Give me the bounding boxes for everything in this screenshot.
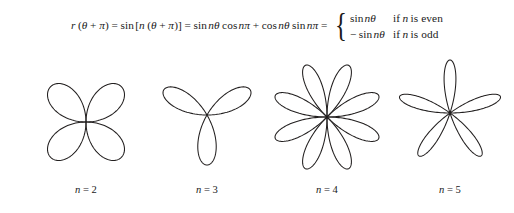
formula-plus-middle: +: [250, 19, 262, 31]
rose-n2-label: n=2: [46, 184, 126, 195]
rose-n2: [30, 48, 142, 186]
formula-term1-plus: +: [157, 19, 169, 31]
formula-term1-theta: θ: [151, 19, 157, 31]
formula-term1-n: n: [139, 19, 145, 31]
rose-n2-label-value: 2: [92, 184, 97, 195]
case-even-value: sinnθ: [350, 12, 393, 24]
formula-expression: r(θ+π)=sin[n(θ+π)]=sinnθcosnπ+cosnθsinnπ…: [71, 12, 443, 41]
formula-sin-2: sin: [194, 19, 209, 31]
formula-term2-npi: nπ: [239, 19, 251, 31]
rose-n2-label-text: n=2: [75, 184, 97, 195]
rose-n5-label-value: 5: [456, 184, 461, 195]
rose-n2-petal-1: [86, 84, 124, 122]
case-odd-arg: nθ: [373, 28, 384, 40]
rose-n4-petal-4: [275, 93, 327, 117]
rose-n5-petal-5: [450, 94, 501, 113]
case-odd: −sinnθifnis odd: [350, 28, 443, 40]
formula-equals-2: =: [182, 19, 194, 31]
case-even-condition: ifnis even: [393, 12, 443, 24]
rose-n3: [152, 48, 262, 186]
case-even-rest: is even: [411, 12, 443, 24]
rose-n4-label-equals: =: [321, 184, 332, 195]
formula-term3-npi: nπ: [307, 19, 319, 31]
cases-list: sinnθifnis even−sinnθifnis odd: [350, 12, 443, 41]
case-even-arg: nθ: [365, 12, 376, 24]
case-odd-rest: is odd: [411, 28, 439, 40]
cases-brace-group: {sinnθifnis even−sinnθifnis odd: [333, 12, 443, 41]
formula-equals-1: =: [109, 19, 121, 31]
case-odd-sign: −: [350, 28, 356, 40]
rose-n5-petal-3: [418, 113, 450, 156]
rose-n2-petal-3: [48, 122, 86, 160]
left-curly-brace-icon: {: [335, 12, 347, 39]
rose-n3-petal-1: [207, 87, 251, 115]
rose-n5-petal-2: [399, 94, 450, 113]
rose-n3-svg: [152, 48, 262, 186]
rose-n4-label-value: 4: [333, 184, 338, 195]
rose-n3-label-text: n=3: [196, 184, 218, 195]
rose-curves-row: [0, 48, 514, 186]
rose-n3-petal-2: [163, 87, 207, 115]
rose-n2-svg: [30, 48, 142, 186]
rose-n5: [393, 48, 507, 186]
case-odd-var: n: [402, 28, 408, 40]
rose-n4-svg: [268, 48, 386, 186]
rose-n4-petal-3: [303, 65, 327, 117]
formula-sin-3: sin: [292, 19, 307, 31]
formula-cos-1: cos: [222, 19, 239, 31]
case-odd-value: −sinnθ: [350, 28, 393, 40]
rose-n5-petal-4: [450, 113, 482, 156]
formula-term3-ntheta: nθ: [278, 19, 289, 31]
formula-block: r(θ+π)=sin[n(θ+π)]=sinnθcosnπ+cosnθsinnπ…: [0, 6, 514, 46]
rose-n4-petal-1: [327, 93, 379, 117]
formula-lhs-r: r: [71, 19, 76, 31]
rose-n4-label: n=4: [287, 184, 367, 195]
case-odd-sin: sin: [359, 28, 374, 40]
rose-n4-petal-2: [327, 65, 351, 117]
rose-n4-petal-5: [275, 117, 327, 141]
rose-n4-petal-7: [327, 117, 351, 169]
rose-n3-label-equals: =: [201, 184, 212, 195]
rose-n5-label: n=5: [410, 184, 490, 195]
rose-n3-label-value: 3: [213, 184, 218, 195]
case-even: sinnθifnis even: [350, 12, 443, 24]
formula-term2-ntheta: nθ: [208, 19, 219, 31]
rose-n2-petal-4: [86, 122, 124, 160]
rose-n3-petal-3: [198, 115, 216, 165]
rose-labels-row: n=2n=3n=4n=5: [0, 184, 514, 204]
rose-n5-label-equals: =: [444, 184, 455, 195]
formula-lhs-plus: +: [87, 19, 99, 31]
rose-n4-petal-8: [327, 117, 379, 141]
rose-n3-label: n=3: [167, 184, 247, 195]
case-odd-condition: ifnis odd: [393, 28, 439, 40]
polar-rose-figure: r(θ+π)=sin[n(θ+π)]=sinnθcosnπ+cosnθsinnπ…: [0, 0, 514, 213]
case-even-if: if: [393, 12, 400, 24]
rose-n5-label-text: n=5: [439, 184, 461, 195]
rose-n5-svg: [393, 48, 507, 186]
case-odd-if: if: [393, 28, 400, 40]
rose-n4-label-text: n=4: [316, 184, 338, 195]
formula-sin-1: sin: [120, 19, 135, 31]
case-even-sin: sin: [350, 12, 365, 24]
rose-n4-petal-6: [303, 117, 327, 169]
rose-n4: [268, 48, 386, 186]
formula-equals-3: =: [318, 19, 330, 31]
rose-n2-petal-2: [48, 84, 86, 122]
formula-cos-2: cos: [262, 19, 279, 31]
case-even-var: n: [402, 12, 408, 24]
rose-n2-label-equals: =: [80, 184, 91, 195]
rose-n5-petal-1: [444, 60, 456, 113]
